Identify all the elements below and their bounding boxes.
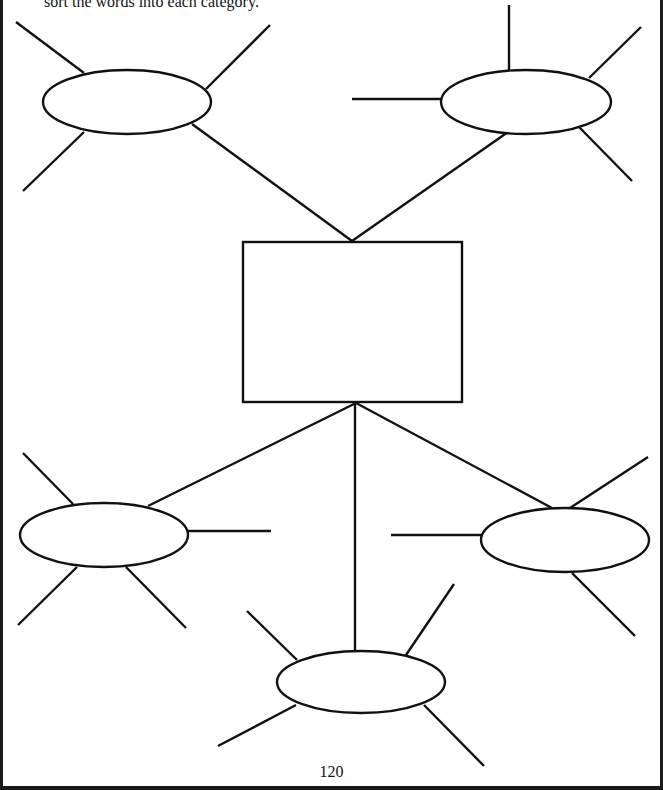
spoke: [218, 705, 296, 746]
word-sort-diagram: [0, 0, 663, 790]
spoke: [23, 453, 73, 504]
spoke: [18, 567, 77, 625]
category-ellipse-bottom-left[interactable]: [20, 503, 188, 567]
connector-bottom-left: [148, 403, 356, 506]
spoke: [23, 132, 84, 191]
page-number: 120: [0, 763, 663, 781]
category-ellipse-top-left[interactable]: [43, 70, 211, 134]
category-ellipse-top-right[interactable]: [441, 70, 611, 134]
connector-top-left: [192, 124, 352, 241]
spoke: [16, 22, 84, 73]
spoke: [247, 611, 297, 660]
connector-bottom-right: [356, 403, 552, 508]
spoke: [126, 567, 186, 628]
category-ellipse-bottom-center[interactable]: [277, 651, 445, 713]
spoke: [570, 457, 648, 508]
category-ellipse-bottom-right[interactable]: [481, 508, 649, 572]
spoke: [206, 25, 270, 89]
spoke: [579, 127, 632, 181]
spoke: [406, 584, 454, 655]
worksheet-page: sort the words into each category.: [0, 0, 663, 790]
connector-top-right: [352, 132, 508, 241]
spoke: [424, 705, 484, 766]
spoke: [589, 27, 641, 78]
main-topic-box[interactable]: [243, 242, 462, 402]
spoke: [572, 573, 635, 636]
